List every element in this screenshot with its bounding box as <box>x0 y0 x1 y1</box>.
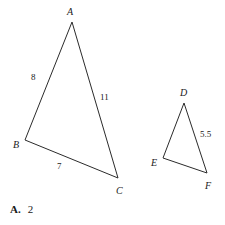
answer-choice-letter: A. <box>10 204 21 215</box>
side-length-ac: 11 <box>100 93 109 102</box>
triangles-drawing <box>0 0 225 225</box>
vertex-label-d: D <box>180 88 187 98</box>
vertex-label-e: E <box>151 158 157 168</box>
geometry-problem-figure: A B C 8 11 7 D E F 5.5 A. 2 <box>0 0 225 225</box>
side-length-bc: 7 <box>57 162 62 171</box>
vertex-label-b: B <box>13 140 19 150</box>
vertex-label-f: F <box>205 181 211 191</box>
side-length-ab: 8 <box>31 73 36 82</box>
answer-choice-a[interactable]: A. 2 <box>10 204 33 215</box>
vertex-label-a: A <box>67 7 73 17</box>
side-length-df: 5.5 <box>200 130 211 139</box>
answer-choice-value: 2 <box>28 204 34 215</box>
vertex-label-c: C <box>116 186 123 196</box>
